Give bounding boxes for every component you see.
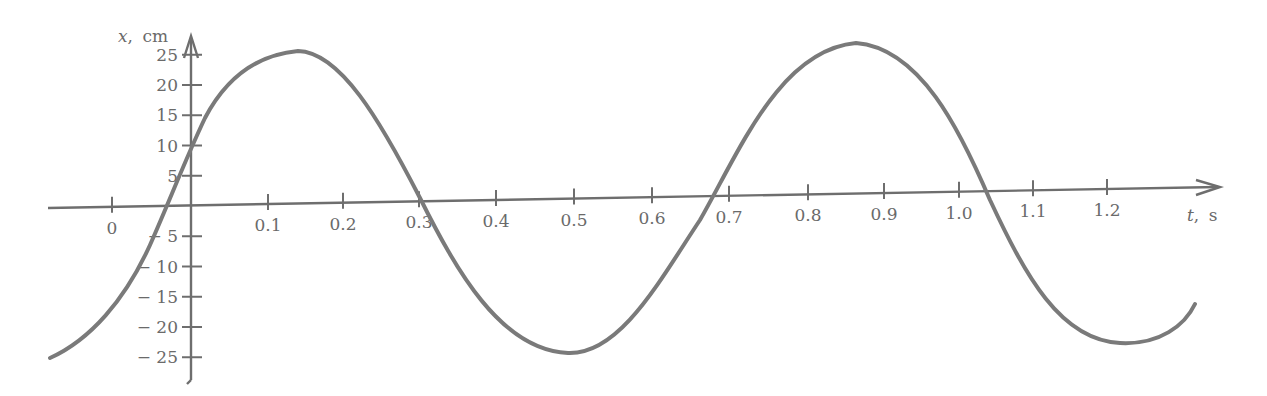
time-tick-label: 0.8 (794, 205, 821, 225)
time-tick-label: 1.0 (945, 203, 972, 223)
displacement-axis-tail (187, 380, 191, 384)
displacement-tick-label: 15 (156, 105, 178, 125)
displacement-tick-label: 25 (156, 45, 178, 65)
time-tick-label: 0 (107, 218, 118, 238)
displacement-tick-label: 20 (156, 75, 178, 95)
time-tick-label: 0.5 (560, 210, 587, 230)
displacement-tick-label: 10 (156, 136, 178, 156)
displacement-tick-label: − 15 (137, 287, 178, 307)
time-axis-ticks: 00.10.20.30.40.50.60.70.80.91.01.11.2 (107, 179, 1121, 238)
time-tick-label: 0.2 (329, 214, 356, 234)
time-tick-label: 1.1 (1019, 201, 1046, 221)
time-tick-label: 0.1 (254, 215, 281, 235)
time-tick-label: 0.7 (715, 207, 742, 227)
oscillation-chart: 00.10.20.30.40.50.60.70.80.91.01.11.2 25… (0, 0, 1267, 396)
time-tick-label: 0.4 (482, 211, 509, 231)
displacement-tick-label: − 25 (137, 347, 178, 367)
y-axis-title: x, cm (118, 26, 168, 46)
x-axis-title: t, s (1187, 205, 1217, 225)
time-tick-label: 1.2 (1093, 200, 1120, 220)
time-tick-label: 0.6 (638, 208, 665, 228)
displacement-tick-label: − 20 (137, 317, 178, 337)
displacement-axis (184, 36, 198, 384)
time-tick-label: 0.9 (870, 204, 897, 224)
